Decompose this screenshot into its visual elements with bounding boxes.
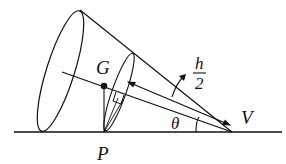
label-g: G [96,57,110,78]
label-v: V [241,107,255,128]
fraction-numerator: h [195,54,204,73]
centre-of-mass-point [101,83,108,90]
fraction-denominator: 2 [195,74,204,93]
label-p: P [96,143,109,164]
cone-base-ellipse [28,7,93,136]
label-theta: θ [171,114,179,133]
cone-diagram: G P V θ h 2 [0,0,286,164]
p-to-section-line-2 [104,100,123,132]
cone-axis [62,72,232,132]
